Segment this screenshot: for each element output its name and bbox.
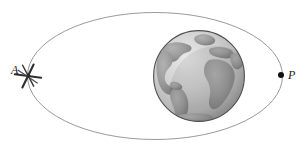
earth-globe [154, 31, 262, 138]
orbit-diagram: A P [0, 0, 306, 165]
earth-terminator-shade [170, 46, 262, 138]
orbit-diagram-canvas [0, 0, 306, 165]
perigee-point-dot [278, 72, 284, 78]
apogee-label: A [11, 64, 18, 76]
earth-landmasses [156, 34, 262, 138]
perigee-label: P [288, 69, 295, 81]
